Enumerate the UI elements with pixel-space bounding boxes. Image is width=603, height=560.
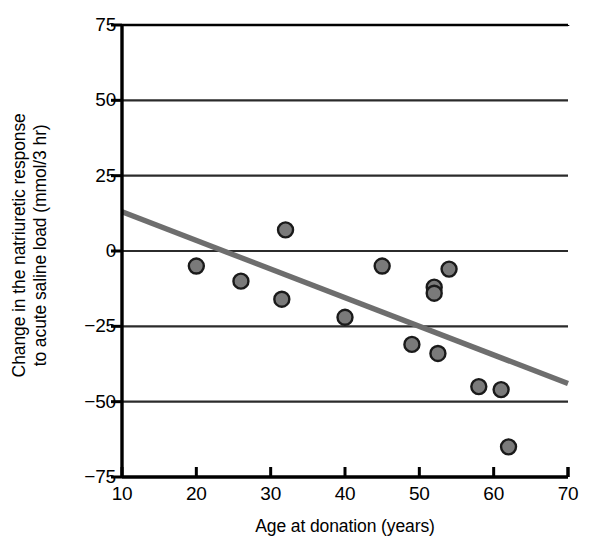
data-point	[430, 346, 445, 361]
data-point	[233, 274, 248, 289]
data-point	[501, 439, 516, 454]
data-point	[274, 292, 289, 307]
data-point	[338, 310, 353, 325]
data-point	[375, 259, 390, 274]
data-point	[278, 222, 293, 237]
data-point	[404, 337, 419, 352]
data-point	[442, 262, 457, 277]
data-point	[494, 382, 509, 397]
data-point	[471, 379, 486, 394]
scatter-chart-figure: Change in the natriuretic response to ac…	[0, 0, 603, 560]
data-point	[427, 286, 442, 301]
data-point	[189, 259, 204, 274]
plot-area-svg	[0, 0, 603, 560]
